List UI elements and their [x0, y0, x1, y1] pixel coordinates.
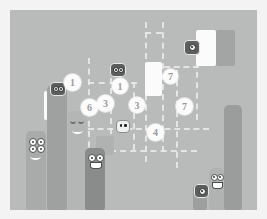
eye-closed-right	[78, 117, 84, 124]
bar-dark-short	[85, 148, 105, 210]
node-marker[interactable]: 6	[81, 99, 98, 116]
eye-closed-left	[70, 117, 76, 124]
illustration-canvas: 1 1 3 3 6 4 7 7	[0, 0, 267, 219]
node-marker[interactable]: 3	[129, 97, 145, 113]
eye	[199, 188, 206, 195]
chart-panel: 1 1 3 3 6 4 7 7	[10, 10, 257, 210]
bar-multi-eye	[26, 131, 46, 210]
eye	[217, 174, 224, 181]
eye	[189, 44, 196, 51]
eye	[118, 67, 124, 73]
node-marker[interactable]: 4	[147, 124, 164, 141]
card-center-white	[145, 62, 162, 96]
bar-tall-antenna	[47, 85, 67, 210]
card-top-gray	[216, 30, 235, 66]
badge-mid-small	[116, 120, 130, 133]
badge-bottom-right	[194, 184, 209, 198]
mouth	[90, 162, 102, 169]
badge-center-top	[110, 63, 126, 77]
eye	[29, 145, 37, 153]
eye	[120, 124, 123, 127]
bar-right-mid	[209, 168, 224, 210]
node-marker[interactable]: 7	[163, 69, 178, 84]
eye	[37, 145, 45, 153]
gridline-horizontal	[110, 150, 197, 152]
node-marker[interactable]: 1	[112, 78, 128, 94]
mouth	[212, 182, 223, 189]
gridline-horizontal	[145, 32, 162, 34]
eye	[96, 154, 104, 162]
node-marker[interactable]: 1	[64, 74, 81, 91]
mouth	[30, 153, 41, 160]
gridline-vertical	[133, 82, 135, 150]
mouth	[72, 127, 83, 134]
node-marker[interactable]: 7	[176, 98, 193, 115]
bar-right-tall	[224, 105, 242, 210]
gridline-vertical	[176, 70, 178, 168]
eye	[88, 154, 96, 162]
eye	[124, 124, 127, 127]
eye	[58, 86, 64, 92]
badge-upper-right	[184, 40, 200, 55]
node-marker[interactable]: 3	[97, 95, 114, 112]
